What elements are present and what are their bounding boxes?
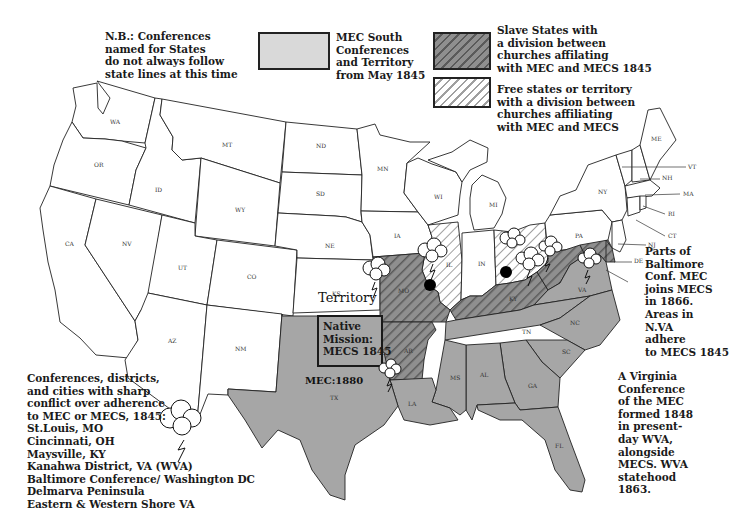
svg-text:NE: NE — [325, 242, 335, 249]
svg-text:SD: SD — [316, 190, 325, 197]
svg-text:AR: AR — [403, 347, 413, 354]
cincinnati-dot — [500, 266, 512, 278]
nb-note: N.B.: Conferences named for States do no… — [105, 30, 238, 80]
svg-text:OR: OR — [94, 161, 104, 168]
svg-text:ID: ID — [155, 186, 162, 193]
state-MA — [625, 180, 660, 198]
territory-label: Territory — [318, 290, 377, 305]
svg-text:TN: TN — [522, 328, 531, 335]
state-FL — [477, 403, 585, 492]
svg-text:IL: IL — [446, 261, 452, 268]
svg-text:LA: LA — [408, 400, 417, 407]
svg-text:MS: MS — [450, 374, 460, 381]
state-WA — [72, 81, 155, 143]
state-NJ — [612, 220, 626, 252]
svg-text:MO: MO — [398, 287, 409, 294]
svg-text:NV: NV — [122, 240, 132, 247]
svg-text:RI: RI — [668, 210, 676, 217]
svg-text:KY: KY — [509, 295, 518, 302]
legend-swatch-slave-divided — [433, 32, 491, 70]
svg-text:MN: MN — [377, 165, 388, 172]
svg-text:SC: SC — [562, 348, 571, 355]
svg-text:CO: CO — [247, 273, 257, 280]
state-RI — [640, 196, 646, 210]
svg-text:DE: DE — [634, 257, 643, 264]
svg-text:CT: CT — [668, 232, 677, 239]
legend-swatch-free-divided — [433, 77, 491, 108]
svg-text:IN: IN — [478, 260, 486, 267]
svg-text:NH: NH — [662, 174, 672, 181]
legend-label-slave-divided: Slave States with a division between chu… — [497, 24, 652, 74]
svg-text:NM: NM — [235, 345, 246, 352]
svg-text:MT: MT — [222, 141, 232, 148]
svg-text:CA: CA — [65, 240, 75, 247]
baltimore-note: Parts of Baltimore Conf. MEC joins MECS … — [645, 245, 729, 358]
svg-text:AZ: AZ — [167, 337, 177, 344]
st-louis-dot — [424, 279, 436, 291]
svg-text:AL: AL — [479, 371, 488, 378]
svg-text:VT: VT — [687, 163, 696, 170]
svg-text:IA: IA — [394, 232, 401, 239]
legend-swatch-mecs — [258, 32, 330, 70]
svg-text:MI: MI — [489, 201, 498, 208]
svg-text:MA: MA — [683, 190, 694, 197]
virginia-note: A Virginia Conference of the MEC formed … — [618, 370, 693, 496]
svg-text:ND: ND — [316, 142, 326, 149]
svg-text:FL: FL — [555, 442, 563, 449]
svg-text:GA: GA — [528, 382, 538, 389]
svg-text:WY: WY — [235, 206, 246, 213]
svg-text:PA: PA — [575, 232, 583, 239]
svg-text:WA: WA — [110, 118, 121, 125]
svg-text:ME: ME — [651, 135, 662, 142]
svg-text:NY: NY — [598, 188, 608, 195]
state-CT — [627, 196, 640, 216]
legend-label-free-divided: Free states or territory with a division… — [497, 83, 635, 133]
svg-text:TX: TX — [330, 394, 339, 401]
native-mission-label: Native Mission: MECS 1845 — [323, 320, 391, 358]
legend-label-mecs: MEC South Conferences and Territory from… — [336, 31, 425, 81]
svg-text:WI: WI — [434, 193, 443, 200]
mec-1880-label: MEC:1880 — [305, 375, 363, 386]
svg-text:VA: VA — [577, 286, 587, 293]
conflict-note: Conferences, districts, and cities with … — [27, 372, 255, 511]
svg-text:NC: NC — [570, 319, 580, 326]
svg-text:UT: UT — [178, 264, 187, 271]
